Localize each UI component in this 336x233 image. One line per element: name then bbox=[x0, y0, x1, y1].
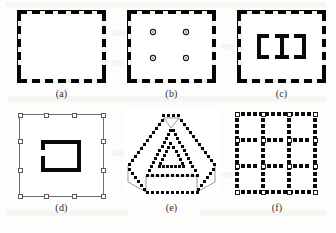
panel-f-label: (f) bbox=[233, 202, 321, 214]
panel-a-drawing bbox=[17, 10, 106, 83]
panel-a-label: (a) bbox=[17, 88, 106, 100]
panel-d-drawing bbox=[17, 112, 106, 199]
panel-c-drawing bbox=[237, 10, 326, 83]
scan-bleed bbox=[222, 172, 232, 178]
panel-c: (c) bbox=[237, 10, 326, 83]
scan-bleed bbox=[6, 2, 326, 7]
panel-d: (d) bbox=[17, 112, 106, 199]
panel-c-label: (c) bbox=[237, 88, 326, 100]
scan-bleed bbox=[112, 60, 124, 66]
panel-f: (f) bbox=[233, 110, 321, 196]
figure-container: (a) bbox=[0, 0, 336, 233]
panel-f-drawing bbox=[233, 110, 321, 196]
panel-b-drawing bbox=[127, 10, 216, 83]
panel-e-drawing bbox=[124, 108, 219, 199]
panel-b: (b) bbox=[127, 10, 216, 83]
panel-d-label: (d) bbox=[17, 202, 106, 214]
scan-bleed bbox=[112, 30, 126, 36]
panel-e-label: (e) bbox=[124, 202, 219, 214]
panel-b-label: (b) bbox=[127, 88, 216, 100]
panel-e: (e) bbox=[124, 108, 219, 199]
scan-bleed bbox=[222, 44, 234, 50]
panel-a: (a) bbox=[17, 10, 106, 83]
scan-bleed bbox=[112, 150, 124, 156]
